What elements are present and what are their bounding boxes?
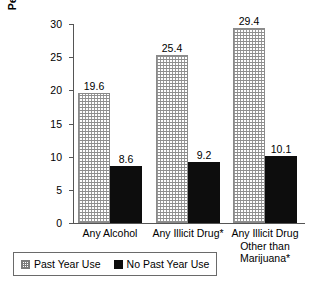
x-axis-line [73, 223, 305, 224]
legend-swatch-solid [114, 260, 123, 269]
legend-swatch-hatch [21, 260, 30, 269]
bar-value-label: 25.4 [162, 42, 182, 54]
plot-area: 051015202530 19.68.625.49.229.410.1 Any … [73, 24, 305, 223]
y-axis-tick-label: 25 [50, 51, 62, 63]
category-label-line: Any Illicit Drug [219, 227, 311, 240]
y-axis-tick: 0 [69, 223, 73, 224]
chart-legend: Past Year UseNo Past Year Use [13, 252, 217, 276]
bar-no-past-year-use: 10.1 [265, 156, 297, 223]
y-axis-tick-label: 30 [50, 18, 62, 30]
legend-label: Past Year Use [34, 258, 101, 270]
legend-item: No Past Year Use [114, 258, 210, 270]
bar-value-label: 29.4 [239, 15, 259, 27]
bar-no-past-year-use: 9.2 [188, 162, 220, 223]
bar-value-label: 8.6 [119, 153, 134, 165]
legend-item: Past Year Use [21, 258, 101, 270]
legend-label: No Past Year Use [127, 258, 210, 270]
y-axis-tick: 25 [69, 57, 73, 58]
bar-no-past-year-use: 8.6 [110, 166, 142, 223]
bar-past-year-use: 29.4 [233, 28, 265, 223]
y-axis-tick-label: 20 [50, 84, 62, 96]
category-label-line: Other than [219, 240, 311, 253]
y-axis-tick-label: 10 [50, 151, 62, 163]
bar-past-year-use: 25.4 [156, 55, 188, 223]
y-axis-line [73, 24, 74, 223]
y-axis-title-line-1: Percent at Risk for Suicide [6, 0, 19, 10]
y-axis-tick-label: 5 [56, 184, 62, 196]
x-axis-category-label: Any Illicit DrugOther thanMarijuana* [219, 227, 311, 265]
y-axis-tick: 30 [69, 24, 73, 25]
y-axis-tick-label: 0 [56, 217, 62, 229]
bar-value-label: 19.6 [84, 80, 104, 92]
bar-chart-figure: Percent at Risk for Suicide During the P… [0, 0, 324, 286]
bar-value-label: 9.2 [197, 149, 212, 161]
y-axis-tick: 15 [69, 124, 73, 125]
bar-value-label: 10.1 [271, 143, 291, 155]
y-axis-tick: 20 [69, 90, 73, 91]
y-axis-tick: 5 [69, 190, 73, 191]
y-axis-tick: 10 [69, 157, 73, 158]
y-axis-tick-label: 15 [50, 118, 62, 130]
category-label-line: Marijuana* [219, 252, 311, 265]
y-axis-title: Percent at Risk for Suicide During the P… [2, 0, 36, 48]
bar-past-year-use: 19.6 [78, 93, 110, 223]
